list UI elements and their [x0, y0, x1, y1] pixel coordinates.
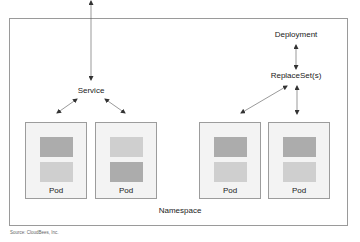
container-top: [214, 137, 247, 157]
deployment-label: Deployment: [275, 30, 318, 39]
container-bottom: [110, 162, 143, 182]
container-bottom: [283, 162, 316, 182]
pod-2: Pod: [95, 122, 157, 199]
pod-label: Pod: [269, 186, 329, 195]
service-label: Service: [78, 86, 105, 95]
pod-1: Pod: [25, 122, 87, 199]
container-top: [283, 137, 316, 157]
namespace-label: Namespace: [159, 206, 202, 215]
pod-4: Pod: [268, 122, 330, 199]
pod-3: Pod: [199, 122, 261, 199]
container-top: [40, 137, 73, 157]
container-bottom: [40, 162, 73, 182]
container-bottom: [214, 162, 247, 182]
source-caption: Source: CloudBees, Inc.: [10, 230, 59, 235]
pod-label: Pod: [200, 186, 260, 195]
container-top: [110, 137, 143, 157]
pod-label: Pod: [96, 186, 156, 195]
pod-label: Pod: [26, 186, 86, 195]
replicaset-label: ReplaceSet(s): [271, 71, 322, 80]
